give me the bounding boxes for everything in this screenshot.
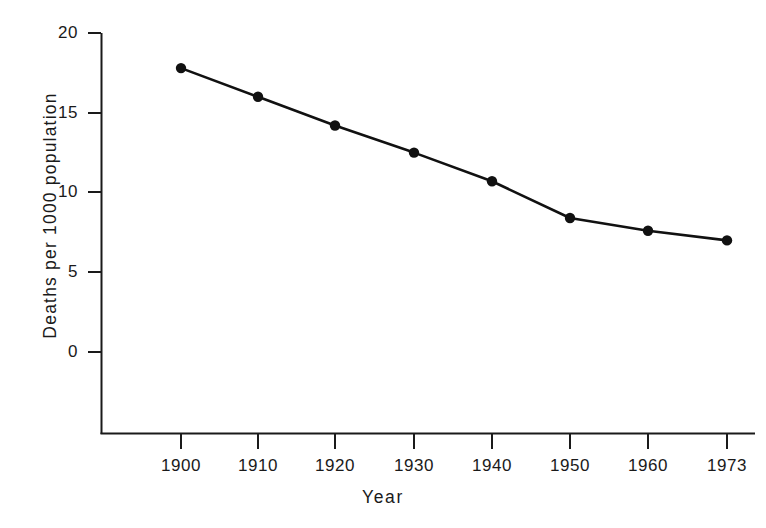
data-point	[176, 63, 186, 73]
line-chart: 20 15 10 5 0 1900 1910 1920 1930 1940 19…	[0, 0, 766, 528]
data-point	[330, 120, 340, 130]
y-tick-label: 20	[18, 23, 78, 43]
x-tick-label: 1950	[530, 456, 610, 476]
data-point-markers	[176, 63, 732, 246]
data-point	[643, 226, 653, 236]
data-point	[565, 213, 575, 223]
x-tick-label: 1920	[295, 456, 375, 476]
x-tick-label: 1973	[687, 456, 766, 476]
y-axis-title: Deaths per 1000 population	[40, 56, 61, 376]
chart-canvas	[0, 0, 766, 528]
data-point	[409, 147, 419, 157]
data-series-line	[181, 68, 727, 240]
x-axis-title: Year	[0, 487, 766, 508]
x-tick-label: 1960	[608, 456, 688, 476]
x-tick-label: 1910	[218, 456, 298, 476]
x-tick-label: 1930	[374, 456, 454, 476]
x-tick-label: 1940	[452, 456, 532, 476]
x-axis-ticks	[181, 434, 727, 449]
data-point	[487, 176, 497, 186]
y-axis-ticks	[88, 33, 101, 352]
x-tick-label: 1900	[141, 456, 221, 476]
data-point	[253, 92, 263, 102]
data-point	[722, 235, 732, 245]
